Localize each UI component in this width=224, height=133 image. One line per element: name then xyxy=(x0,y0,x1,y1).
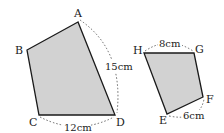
vertex-label-b: B xyxy=(15,44,23,57)
quadrilateral-efgh xyxy=(144,53,203,114)
measure-label-ad: 15cm xyxy=(105,61,133,72)
vertex-label-c: C xyxy=(29,116,37,129)
vertex-label-d: D xyxy=(116,116,125,129)
measure-label-hg: 8cm xyxy=(159,38,181,49)
measure-label-ef: 6cm xyxy=(183,110,205,121)
vertex-label-h: H xyxy=(133,44,143,57)
measure-label-cd: 12cm xyxy=(64,122,92,133)
quadrilateral-abcd xyxy=(27,22,115,115)
vertex-label-a: A xyxy=(73,7,83,20)
figure-abcd: A B C D 15cm 12cm xyxy=(15,7,133,133)
diagram-canvas: A B C D 15cm 12cm H G F E 8cm 6cm xyxy=(0,0,224,133)
figure-efgh: H G F E 8cm 6cm xyxy=(133,38,214,127)
vertex-label-f: F xyxy=(206,93,214,106)
vertex-label-g: G xyxy=(195,43,204,56)
vertex-label-e: E xyxy=(159,114,167,127)
